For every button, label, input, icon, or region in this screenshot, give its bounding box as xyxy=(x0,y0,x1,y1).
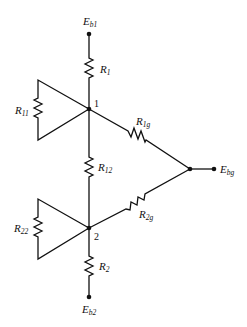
node-g xyxy=(188,167,193,172)
label-node-2: 2 xyxy=(94,231,99,242)
terminal-ebg xyxy=(212,167,217,172)
label-r22: R22 xyxy=(13,222,28,236)
label-r12: R12 xyxy=(97,161,112,175)
resistor-r22 xyxy=(34,199,89,259)
resistor-r12 xyxy=(85,109,93,228)
label-r1: R1 xyxy=(99,63,110,77)
label-r11: R11 xyxy=(14,104,29,118)
label-r2g: R2g xyxy=(138,208,153,222)
resistor-r11 xyxy=(34,80,89,140)
label-r1g: R1g xyxy=(135,115,150,129)
label-ebg: Ebg xyxy=(219,163,234,177)
circuit-diagram: Eb1 R1 R11 1 R1g R12 Ebg R2g R22 2 R2 Eb… xyxy=(0,0,247,327)
label-eb2: Eb2 xyxy=(81,303,96,317)
label-r2: R2 xyxy=(98,260,110,274)
resistor-r1 xyxy=(85,34,93,109)
resistor-r2 xyxy=(85,228,93,297)
label-eb1: Eb1 xyxy=(82,15,97,29)
label-node-1: 1 xyxy=(94,98,99,109)
terminal-eb2 xyxy=(87,295,92,300)
terminal-eb1 xyxy=(87,32,92,37)
